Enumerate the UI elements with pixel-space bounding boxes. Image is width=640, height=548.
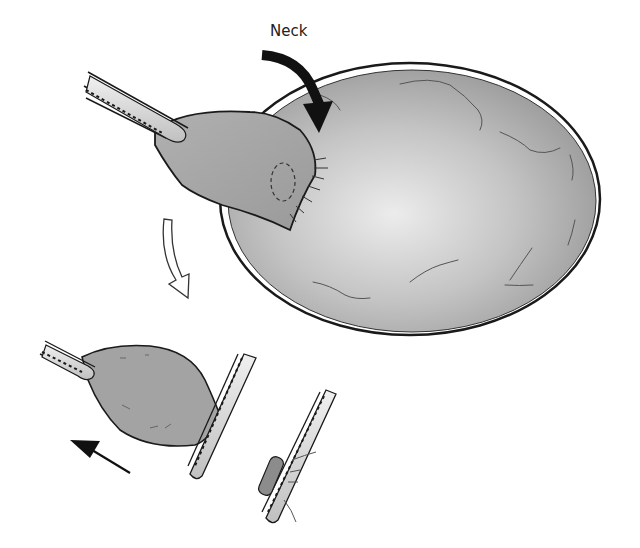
surgical-illustration: Neck — [0, 0, 640, 548]
neck-label: Neck — [270, 22, 307, 40]
outline-curved-arrow — [163, 219, 189, 298]
catheter-upper — [84, 72, 188, 142]
clip-tube — [257, 390, 336, 523]
small-sac — [82, 345, 220, 446]
retraction-arrow — [70, 440, 130, 473]
